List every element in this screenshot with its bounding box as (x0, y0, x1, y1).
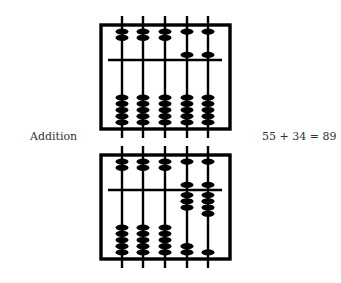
bead (202, 52, 215, 58)
bead (202, 204, 215, 210)
bead (116, 243, 129, 249)
bead (116, 35, 129, 41)
bead (159, 119, 172, 125)
bead (181, 107, 194, 113)
bead (181, 95, 194, 101)
bead (116, 237, 129, 243)
bead (137, 35, 150, 41)
bead (181, 192, 194, 198)
bead (202, 182, 215, 188)
bead (202, 101, 215, 107)
bead (137, 225, 150, 231)
bead (202, 113, 215, 119)
bead (159, 249, 172, 255)
bead (159, 159, 172, 165)
bead (137, 165, 150, 171)
bead (116, 165, 129, 171)
bead (202, 211, 215, 217)
bead (202, 192, 215, 198)
bead (181, 52, 194, 58)
bead (181, 29, 194, 35)
bead (116, 159, 129, 165)
bead (181, 198, 194, 204)
bead (181, 101, 194, 107)
bead (116, 107, 129, 113)
bead (116, 231, 129, 237)
bead (137, 101, 150, 107)
bead (159, 231, 172, 237)
bead (116, 101, 129, 107)
bead (159, 165, 172, 171)
bead (137, 249, 150, 255)
bead (202, 198, 215, 204)
bead (137, 107, 150, 113)
bead (116, 95, 129, 101)
bead (137, 113, 150, 119)
bead (202, 119, 215, 125)
bead (159, 35, 172, 41)
bead (181, 182, 194, 188)
bead (116, 249, 129, 255)
bead (202, 29, 215, 35)
bead (116, 119, 129, 125)
bead (137, 243, 150, 249)
bead (116, 113, 129, 119)
bead (202, 95, 215, 101)
operation-label: Addition (30, 130, 77, 143)
bead (159, 237, 172, 243)
bead (159, 113, 172, 119)
bead (137, 159, 150, 165)
bead (116, 225, 129, 231)
bead (159, 225, 172, 231)
bead (116, 29, 129, 35)
bead (181, 119, 194, 125)
bead (181, 113, 194, 119)
bead (137, 237, 150, 243)
bead (181, 243, 194, 249)
bead (159, 107, 172, 113)
equation-label: 55 + 34 = 89 (262, 130, 336, 143)
bead (137, 231, 150, 237)
bead (159, 101, 172, 107)
bead (137, 29, 150, 35)
bead (202, 107, 215, 113)
bead (159, 95, 172, 101)
bead (181, 159, 194, 165)
bead (159, 243, 172, 249)
bead (159, 29, 172, 35)
bead (181, 204, 194, 210)
bead (137, 95, 150, 101)
bead (137, 119, 150, 125)
bead (202, 249, 215, 255)
bead (202, 159, 215, 165)
bead (181, 249, 194, 255)
